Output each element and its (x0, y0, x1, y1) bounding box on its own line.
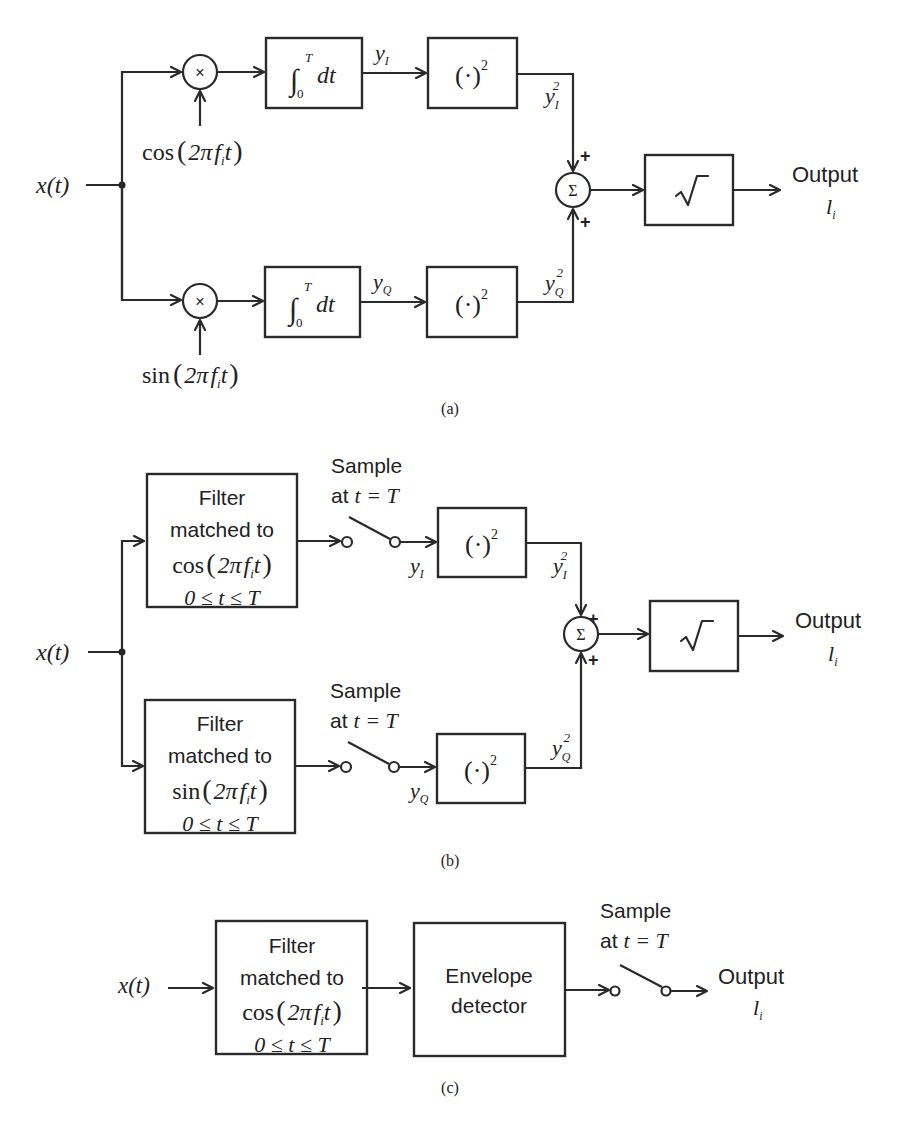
filter-line-4: 0 ≤ t ≤ T (184, 585, 261, 610)
receiver-block-diagrams: x(t) × cos(2πfit) ∫ T 0 dt yI (·)2 yI2 +… (0, 0, 909, 1132)
filter-line-3: sin(2πfit) (172, 774, 268, 807)
yQ-label: yQ (371, 269, 392, 297)
yI2-label: yI2 (543, 78, 560, 112)
sqrt-block (645, 155, 733, 225)
caption-b: (b) (441, 852, 460, 870)
carrier-label-cos: cos(2πfit) (142, 135, 243, 168)
plus-sign-upper: + (580, 146, 591, 166)
yI2-label: yI2 (551, 548, 568, 582)
filter-line-1: Filter (199, 486, 246, 509)
output-label: Output (792, 162, 858, 187)
envelope-line-2: detector (451, 994, 527, 1017)
plus-sign-lower: + (580, 212, 591, 232)
input-label-x-t: x(t) (117, 973, 150, 998)
lower-branch-line (122, 652, 143, 766)
multiply-symbol: × (195, 293, 204, 310)
switch-arm-icon (348, 742, 389, 764)
integral-body: dt (317, 62, 337, 88)
upper-branch-line (122, 72, 181, 300)
switch-contact-in (342, 537, 352, 547)
switch-contact-out (389, 762, 399, 772)
output-symbol: li (753, 995, 762, 1023)
output-symbol: li (828, 641, 837, 669)
sample-at-label: att = T (331, 483, 400, 508)
filter-line-1: Filter (197, 712, 244, 735)
carrier-label-sin: sin(2πfit) (142, 358, 239, 391)
multiply-symbol: × (195, 64, 204, 81)
filter-line-2: matched to (170, 518, 274, 541)
integral-body: dt (316, 291, 336, 317)
caption-a: (a) (441, 400, 459, 418)
envelope-line-1: Envelope (445, 964, 533, 987)
sample-label: Sample (330, 679, 401, 702)
filter-line-4: 0 ≤ t ≤ T (182, 811, 259, 836)
integral-upper-limit: T (304, 279, 312, 294)
panel-c: x(t) Filter matched to cos(2πfit) 0 ≤ t … (117, 899, 784, 1097)
switch-contact-in (611, 987, 620, 996)
integrator-block-upper (266, 38, 362, 108)
switch-contact-out (662, 987, 671, 996)
lower-branch-line (122, 185, 181, 300)
envelope-detector-block (414, 923, 565, 1056)
panel-b: x(t) Filter matched to cos(2πfit) 0 ≤ t … (35, 454, 861, 870)
yQ2-label: yQ2 (550, 730, 571, 764)
filter-line-1: Filter (269, 934, 316, 957)
upper-branch-line (122, 541, 144, 652)
input-label-x-t: x(t) (35, 172, 69, 198)
switch-arm-icon (349, 517, 390, 539)
filter-line-2: matched to (240, 966, 344, 989)
switch-contact-in (341, 762, 351, 772)
filter-line-3: cos(2πfit) (242, 995, 342, 1028)
integral-lower-limit: 0 (297, 86, 304, 101)
sqrt-block (650, 601, 738, 671)
input-label-x-t: x(t) (35, 639, 69, 665)
sample-label: Sample (331, 454, 402, 477)
yQ2-label: yQ2 (543, 265, 564, 299)
sample-at-label: att = T (600, 928, 669, 953)
yQ-label: yQ (408, 778, 429, 806)
integrator-block-lower (265, 267, 360, 337)
yI-label: yI (408, 553, 425, 581)
plus-sign-lower: + (588, 650, 599, 670)
caption-c: (c) (441, 1079, 459, 1097)
panel-a: x(t) × cos(2πfit) ∫ T 0 dt yI (·)2 yI2 +… (35, 38, 858, 418)
sample-label: Sample (600, 899, 671, 922)
integral-upper-limit: T (305, 50, 313, 65)
filter-line-2: matched to (168, 744, 272, 767)
switch-arm-icon (620, 965, 662, 987)
yI-label: yI (373, 40, 390, 68)
filter-line-3: cos(2πfit) (172, 548, 272, 581)
filter-line-4: 0 ≤ t ≤ T (254, 1032, 331, 1057)
switch-contact-out (390, 537, 400, 547)
output-label: Output (718, 964, 784, 989)
sample-at-label: att = T (330, 708, 399, 733)
output-symbol: li (826, 194, 835, 222)
integral-lower-limit: 0 (296, 315, 303, 330)
sigma-symbol: Σ (576, 626, 585, 643)
output-label: Output (795, 608, 861, 633)
sigma-symbol: Σ (568, 182, 577, 199)
